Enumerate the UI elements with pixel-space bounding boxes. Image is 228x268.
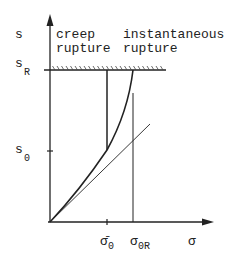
stress-strain-curve (50, 70, 133, 222)
x-axis-arrow-icon (202, 219, 214, 226)
creep-rupture-label-line2: rupture (56, 41, 111, 56)
initial-tangent-line (50, 124, 150, 222)
sigma-bar-0-subscript: 0 (108, 241, 114, 252)
instantaneous-rupture-label-line1: instantaneous (123, 27, 224, 42)
s0-subscript: 0 (24, 153, 30, 164)
sigma-0r-label: σ (130, 234, 138, 249)
y-axis-label: s (15, 27, 23, 42)
instantaneous-rupture-label-line2: rupture (123, 41, 178, 56)
y-axis-arrow-icon (47, 14, 54, 26)
creep-rupture-label-line1: creep (56, 27, 95, 42)
x-axis-label: σ (188, 234, 196, 249)
s-r-label: s (15, 56, 23, 71)
sigma-0r-subscript: 0R (138, 241, 150, 252)
s0-label: s (15, 142, 23, 157)
s-r-subscript: R (24, 67, 30, 78)
diagram: s s R s 0 creep rupture instantaneous ru… (0, 0, 228, 268)
